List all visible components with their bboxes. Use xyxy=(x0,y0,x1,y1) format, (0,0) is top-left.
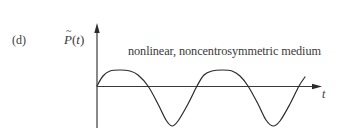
polarization-curve xyxy=(97,70,305,126)
y-axis-arrowhead-icon xyxy=(94,23,99,33)
y-axis-symbol: ~ P xyxy=(64,33,72,46)
x-axis-arrowhead-icon xyxy=(312,84,322,89)
panel-label: (d) xyxy=(12,34,26,46)
tilde-accent: ~ xyxy=(66,26,71,36)
y-axis-paren-close: ) xyxy=(80,32,84,47)
polarization-diagram: (d) ~ P (t) nonlinear, noncentrosymmetri… xyxy=(0,0,341,131)
x-axis-label: t xyxy=(322,88,325,100)
plot-canvas xyxy=(0,0,341,131)
medium-caption: nonlinear, noncentrosymmetric medium xyxy=(128,45,321,57)
y-axis-label: ~ P (t) xyxy=(64,33,84,46)
